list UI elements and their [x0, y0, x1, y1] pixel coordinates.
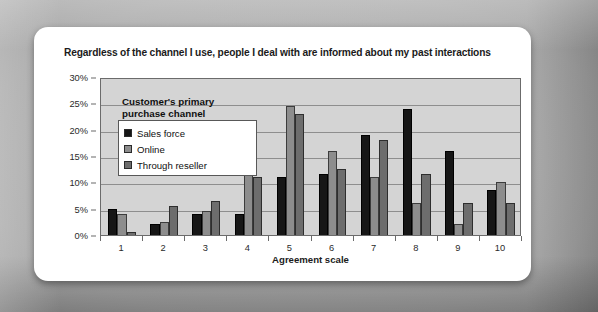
bar — [463, 203, 472, 235]
bar-group — [269, 79, 311, 235]
bar — [127, 232, 136, 235]
legend-item: Sales force — [124, 125, 256, 141]
y-axis: 30%25%20%15%10%5%0% — [34, 71, 96, 246]
bar — [328, 151, 337, 235]
bar-group — [354, 79, 396, 235]
page-title: Regardless of the channel I use, people … — [64, 47, 514, 58]
y-axis-tick-label: 25% — [69, 99, 88, 109]
bar — [445, 151, 454, 235]
bar — [295, 114, 304, 235]
bar — [421, 174, 430, 235]
x-axis-title: Agreement scale — [100, 254, 521, 265]
bar — [235, 214, 244, 235]
bar-group — [480, 79, 522, 235]
y-axis-tick-mark — [91, 236, 96, 237]
bar — [169, 206, 178, 235]
bar — [160, 222, 169, 235]
y-axis-tick-mark — [91, 157, 96, 158]
x-axis-tick-mark — [142, 236, 143, 241]
bar — [150, 224, 159, 235]
y-axis-tick-label: 30% — [69, 73, 88, 83]
y-axis-tick-mark — [91, 104, 96, 105]
x-axis-tick-label: 6 — [329, 243, 334, 253]
bar-group — [312, 79, 354, 235]
x-axis-tick-mark — [353, 236, 354, 241]
legend: Sales forceOnlineThrough reseller — [118, 120, 257, 176]
bar — [361, 135, 370, 235]
x-axis-tick-label: 10 — [495, 243, 505, 253]
x-axis-tick-label: 5 — [287, 243, 292, 253]
x-axis-tick-label: 1 — [118, 243, 123, 253]
x-axis-tick-label: 7 — [371, 243, 376, 253]
screenshot-frame: Regardless of the channel I use, people … — [0, 0, 598, 312]
bar — [117, 214, 126, 235]
legend-swatch-icon — [124, 161, 132, 169]
x-axis-tick-mark — [226, 236, 227, 241]
legend-item: Online — [124, 141, 256, 157]
bar — [202, 211, 211, 235]
y-axis-tick-mark — [91, 209, 96, 210]
x-axis-tick-mark — [521, 236, 522, 241]
bar — [487, 190, 496, 235]
x-axis-tick-label: 4 — [245, 243, 250, 253]
legend-swatch-icon — [124, 145, 132, 153]
x-axis-tick-mark — [184, 236, 185, 241]
bar — [192, 214, 201, 235]
legend-item: Through reseller — [124, 157, 256, 173]
bar — [403, 109, 412, 235]
y-axis-tick-label: 15% — [69, 152, 88, 162]
y-axis-tick-label: 0% — [75, 231, 88, 241]
bar — [277, 177, 286, 235]
bar — [412, 203, 421, 235]
y-axis-tick-mark — [91, 183, 96, 184]
bar — [108, 209, 117, 235]
chart-card: Regardless of the channel I use, people … — [34, 27, 531, 281]
x-axis-tick-label: 3 — [203, 243, 208, 253]
bar — [286, 106, 295, 235]
y-axis-tick-label: 20% — [69, 126, 88, 136]
legend-title-line-2: purchase channel — [122, 108, 252, 120]
x-axis-tick-label: 2 — [161, 243, 166, 253]
bar — [253, 177, 262, 235]
y-axis-tick-label: 5% — [75, 205, 88, 215]
bar-group — [438, 79, 480, 235]
y-axis-tick-label: 10% — [69, 178, 88, 188]
bar-group — [396, 79, 438, 235]
legend-swatch-icon — [124, 129, 132, 137]
legend-item-label: Online — [137, 144, 165, 155]
x-axis-tick-mark — [100, 236, 101, 241]
legend-item-label: Through reseller — [137, 160, 207, 171]
y-axis-tick-mark — [91, 78, 96, 79]
bar — [496, 182, 505, 235]
bar — [454, 224, 463, 235]
x-axis-tick-mark — [268, 236, 269, 241]
x-axis-tick-label: 8 — [413, 243, 418, 253]
x-axis-tick-mark — [479, 236, 480, 241]
bar — [379, 140, 388, 235]
bar — [506, 203, 515, 235]
legend-title: Customer's primary purchase channel — [122, 96, 252, 119]
bar — [337, 169, 346, 235]
bar — [211, 201, 220, 235]
x-axis-tick-mark — [437, 236, 438, 241]
legend-title-line-1: Customer's primary — [122, 96, 252, 108]
bar — [370, 177, 379, 235]
legend-item-label: Sales force — [137, 128, 185, 139]
x-axis-tick-mark — [395, 236, 396, 241]
y-axis-tick-mark — [91, 130, 96, 131]
x-axis-tick-mark — [311, 236, 312, 241]
x-axis-tick-label: 9 — [455, 243, 460, 253]
bar — [319, 174, 328, 235]
